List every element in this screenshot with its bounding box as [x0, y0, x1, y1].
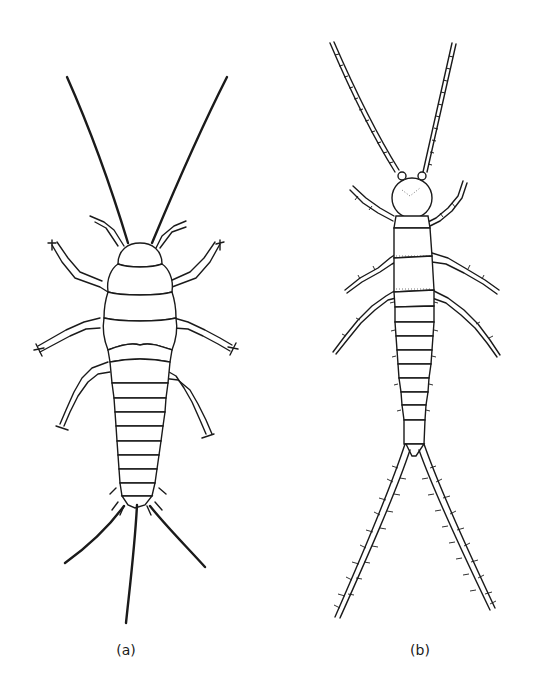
- insect-a-antenna-left: [67, 77, 128, 243]
- insect-b-drawing: [330, 42, 500, 618]
- insect-a-thorax-1: [108, 264, 173, 295]
- insect-a-head: [118, 243, 162, 267]
- insect-b-cercus-right: [424, 444, 495, 608]
- insect-b-thorax-1: [394, 216, 430, 228]
- panel-label-a: (a): [96, 642, 156, 658]
- insect-a-drawing: [34, 77, 238, 623]
- insect-a-median-filament: [126, 505, 137, 623]
- figure: (a) (b): [0, 0, 541, 688]
- insect-b-cercus-left: [335, 444, 405, 617]
- panel-label-b: (b): [390, 642, 450, 658]
- insect-a-antenna-right: [152, 77, 227, 243]
- insect-a-cercus-right: [150, 506, 205, 567]
- insect-a-cercus-left: [65, 506, 124, 563]
- illustration: [0, 0, 541, 688]
- insect-b-thorax-3: [394, 256, 434, 292]
- insect-a-thorax-2: [104, 292, 176, 321]
- insect-b-head: [392, 178, 432, 218]
- insect-b-thorax-2: [394, 228, 432, 258]
- insect-b-antenna-right: [423, 43, 452, 172]
